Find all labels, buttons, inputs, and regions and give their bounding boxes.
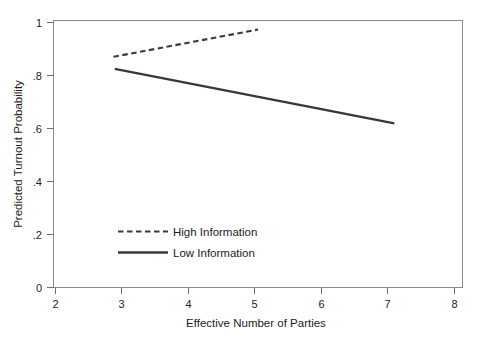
y-tick-label-0: 0 bbox=[36, 282, 42, 294]
y-tick-label-1: 1 bbox=[36, 17, 42, 29]
x-axis-title: Effective Number of Parties bbox=[186, 317, 326, 329]
x-tick-label-6: 6 bbox=[318, 298, 324, 310]
legend-label-high-information: High Information bbox=[173, 226, 257, 238]
x-tick-label-5: 5 bbox=[251, 298, 257, 310]
turnout-probability-line-chart: 0 .2 .4 .6 .8 1 2 3 4 5 6 7 8 Effecti bbox=[0, 0, 478, 340]
x-tick-label-7: 7 bbox=[384, 298, 390, 310]
y-tick-label-0_2: .2 bbox=[33, 229, 42, 241]
y-axis-tick-labels: 0 .2 .4 .6 .8 1 bbox=[33, 17, 42, 294]
x-tick-label-4: 4 bbox=[185, 298, 191, 310]
chart-container: 0 .2 .4 .6 .8 1 2 3 4 5 6 7 8 Effecti bbox=[0, 0, 478, 340]
x-axis-tick-labels: 2 3 4 5 6 7 8 bbox=[52, 298, 457, 310]
x-tick-label-8: 8 bbox=[451, 298, 457, 310]
y-tick-label-0_4: .4 bbox=[33, 176, 42, 188]
y-axis-ticks bbox=[47, 23, 54, 288]
legend-label-low-information: Low Information bbox=[173, 247, 255, 259]
x-tick-label-3: 3 bbox=[118, 298, 124, 310]
plot-frame bbox=[54, 21, 463, 288]
y-tick-label-0_6: .6 bbox=[33, 123, 42, 135]
x-axis-ticks bbox=[56, 288, 455, 295]
y-axis-title: Predicted Turnout Probability bbox=[12, 80, 24, 228]
y-tick-label-0_8: .8 bbox=[33, 70, 42, 82]
x-tick-label-2: 2 bbox=[52, 298, 58, 310]
